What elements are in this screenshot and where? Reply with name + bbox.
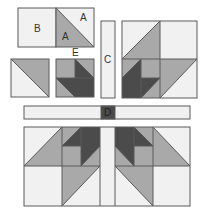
- label-e: E: [72, 47, 79, 58]
- unit-b: B: [18, 8, 56, 47]
- label-a-top: A: [80, 12, 87, 23]
- quilt-block-diagram: B A A E C: [0, 0, 207, 220]
- hst-left: [11, 59, 49, 97]
- block-bottom: [24, 127, 190, 206]
- label-b: B: [34, 23, 41, 34]
- strip-c: C: [101, 21, 115, 98]
- label-a-bottom: A: [62, 31, 69, 42]
- strip-d: D: [24, 106, 190, 119]
- label-d: D: [104, 107, 111, 118]
- block-right: [122, 21, 197, 98]
- label-c: C: [104, 54, 111, 65]
- unit-e: E: [56, 47, 94, 97]
- unit-a: A A: [56, 8, 94, 47]
